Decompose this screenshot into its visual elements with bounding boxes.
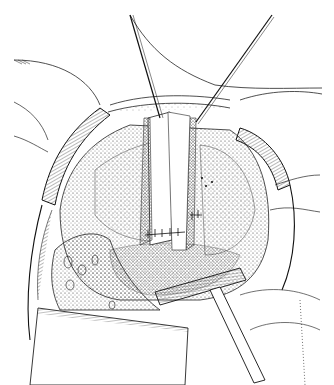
right-traction-suture — [196, 15, 272, 122]
upper-tissue — [14, 15, 322, 112]
lower-drape — [30, 308, 188, 385]
left-traction-suture — [130, 15, 160, 118]
surgical-illustration — [0, 0, 334, 385]
tubular-flap — [140, 112, 196, 250]
